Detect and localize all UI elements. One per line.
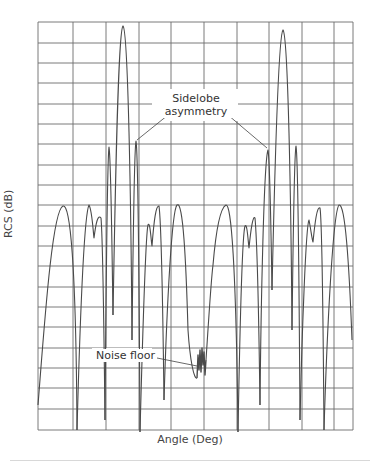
rcs-curve bbox=[38, 26, 352, 432]
x-axis-label: Angle (Deg) bbox=[0, 433, 380, 446]
sidelobe-annotation: Sidelobe asymmetry bbox=[158, 92, 234, 118]
sidelobe-label-line2: asymmetry bbox=[160, 105, 232, 118]
y-axis-label: RCS (dB) bbox=[2, 190, 15, 238]
page-divider bbox=[10, 460, 370, 461]
noise-floor-annotation: Noise floor bbox=[94, 349, 157, 362]
rcs-chart bbox=[0, 0, 380, 468]
sidelobe-label-line1: Sidelobe bbox=[160, 92, 232, 105]
annotation-leaders bbox=[137, 115, 267, 366]
